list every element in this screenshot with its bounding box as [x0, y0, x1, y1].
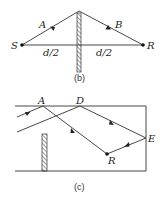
label-point-a: A	[37, 95, 45, 106]
ray-a	[22, 11, 79, 45]
figure-b: S R A B d/2 d/2 (b)	[11, 11, 155, 83]
label-a: A	[38, 19, 46, 30]
caption-c: (c)	[74, 182, 85, 192]
ray-b	[79, 11, 143, 45]
label-b: B	[114, 19, 122, 30]
label-point-e: E	[147, 133, 156, 144]
arrow-incoming-icon	[25, 112, 30, 116]
receiver-point	[141, 43, 145, 47]
label-right-distance: d/2	[96, 47, 112, 58]
label-left-distance: d/2	[43, 47, 59, 58]
arrow-e-to-r-icon	[124, 142, 130, 147]
arrow-ray-a-icon	[50, 27, 55, 32]
ray-d-to-e	[80, 106, 146, 138]
room-boundary	[15, 106, 146, 171]
label-s: S	[11, 40, 18, 51]
source-point	[20, 43, 24, 47]
label-r: R	[146, 40, 155, 51]
reflecting-wall	[77, 13, 81, 72]
obstacle-wall	[42, 134, 47, 171]
diagram-canvas: S R A B d/2 d/2 (b) A D E R (c)	[0, 0, 160, 201]
label-receiver-c: R	[107, 155, 116, 166]
ray-a-to-r	[43, 106, 107, 154]
figure-c: A D E R (c)	[15, 95, 156, 192]
incoming-ray	[17, 106, 43, 117]
label-point-d: D	[75, 95, 84, 106]
caption-b: (b)	[74, 73, 85, 83]
